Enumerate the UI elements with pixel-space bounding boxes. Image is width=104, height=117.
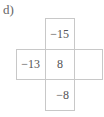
- cell-left: −13: [16, 49, 46, 80]
- problem-label: d): [3, 2, 14, 18]
- cell-bottom: −8: [45, 79, 75, 111]
- cell-right-empty: [74, 49, 103, 80]
- cell-top: −15: [45, 18, 75, 50]
- cell-center: 8: [45, 49, 75, 80]
